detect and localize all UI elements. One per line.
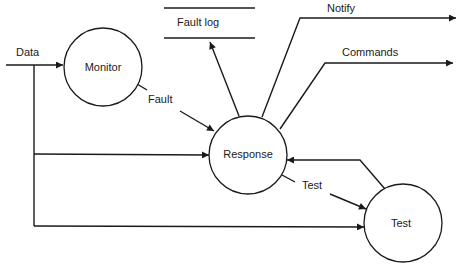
flow-data-to-test: [34, 226, 364, 227]
flow-notify: [262, 18, 456, 117]
flow-test: [282, 175, 366, 209]
notify-label: Notify: [327, 2, 356, 14]
commands-label: Commands: [342, 46, 399, 58]
test-process-label: Test: [391, 217, 411, 229]
flow-response-to-faultlog: [210, 42, 239, 116]
data-flow-diagram: Fault log Monitor Response Test Data Fau…: [0, 0, 462, 265]
test-flow-label: Test: [302, 179, 322, 191]
process-monitor: Monitor: [64, 28, 142, 106]
fault-log-store: Fault log: [164, 8, 255, 38]
fault-label: Fault: [148, 93, 172, 105]
process-test: Test: [364, 184, 442, 262]
monitor-label: Monitor: [85, 61, 122, 73]
fault-log-label: Fault log: [177, 16, 219, 28]
flow-commands: [280, 63, 453, 129]
response-label: Response: [223, 148, 273, 160]
process-response: Response: [209, 116, 287, 194]
data-label: Data: [16, 46, 40, 58]
flow-fault: [137, 84, 214, 131]
flow-data-to-response: [34, 154, 209, 155]
